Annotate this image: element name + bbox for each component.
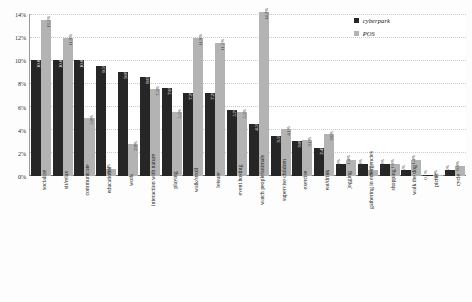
bar-cyberpark[interactable]: 0.5% [445, 170, 455, 176]
bar-group: 0.1%0.0% [422, 14, 444, 176]
bar-value-label: 5.5% [242, 110, 247, 120]
bar-value-label: 2.8% [133, 141, 138, 151]
bar-value-label: 9.5% [101, 63, 106, 73]
category-label: interaction with nature [150, 154, 156, 206]
category-label: eat/drink [324, 170, 330, 190]
bar-cyberpark[interactable]: 7.6% [162, 88, 172, 176]
bar-group: 10.0%11.9% [52, 14, 74, 176]
bar-cyberpark[interactable]: 5.7% [227, 110, 237, 176]
category-tick: work [117, 178, 139, 298]
bar-cyberpark[interactable]: 9.5% [96, 66, 106, 176]
category-label: sit/relax [63, 171, 69, 189]
bar-group: 3.0%3.1% [292, 14, 314, 176]
category-label: gathering in emergencies [368, 151, 374, 209]
bar-value-label: 14.2% [264, 8, 269, 20]
bar-cyberpark[interactable]: 7.2% [205, 93, 215, 176]
bar-pos[interactable]: 11.5% [215, 43, 225, 176]
legend-item-cyberpark[interactable]: cyberpark [354, 17, 390, 24]
bar-group: 0.5%0.9% [444, 14, 466, 176]
legend: cyberpark POS [354, 17, 390, 37]
category-label: watch people/animals [259, 155, 265, 205]
category-label: leisure [215, 172, 221, 187]
bar-value-label: 3.1% [307, 137, 312, 147]
bar-group: 10.0%13.5% [30, 14, 52, 176]
bar-cyberpark[interactable]: 1.0% [358, 164, 368, 176]
bar-value-label: 10.0% [79, 56, 84, 68]
category-label: walk the dog [411, 165, 417, 195]
bar-cyberpark[interactable]: 3.5% [271, 136, 281, 177]
category-tick: watch people/animals [248, 178, 270, 298]
y-axis-tick: 6% [18, 103, 26, 110]
y-axis-tick: 14% [15, 11, 26, 18]
bar-cyberpark[interactable]: 10.0% [31, 60, 41, 176]
bar-value-label: 1.4% [346, 155, 351, 165]
bar-value-label: 0.9% [455, 161, 460, 171]
bar-value-label: 1.0% [390, 160, 395, 170]
category-tick: walk the dog [401, 178, 423, 298]
bar-value-label: 5.0% [89, 115, 94, 125]
category-label: cycle [455, 174, 461, 186]
category-tick: leisure [204, 178, 226, 298]
y-axis-tick: 0% [18, 173, 26, 180]
bar-pos[interactable]: 5.5% [172, 112, 182, 176]
category-label: jogging [346, 171, 352, 189]
bar-cyberpark[interactable]: 9.0% [118, 72, 128, 176]
bar-value-label: 5.5% [177, 110, 182, 120]
category-tick: socialize [30, 178, 52, 298]
bar-pos[interactable]: 2.8% [128, 144, 138, 176]
bar-group: 9.5%0.6% [95, 14, 117, 176]
category-label: socialize [41, 170, 47, 190]
legend-label: cyberpark [363, 17, 390, 24]
bar-pos[interactable]: 13.5% [41, 20, 51, 176]
legend-label: POS [363, 30, 375, 37]
bars-layer: 10.0%13.5%10.0%11.9%10.0%5.0%9.5%0.6%9.0… [30, 14, 466, 176]
bar-pos[interactable]: 14.2% [259, 12, 269, 176]
category-label: educational [106, 167, 112, 194]
bar-group: 0.5%1.4% [401, 14, 423, 176]
category-tick: event hosting [226, 178, 248, 298]
bar-value-label: 11.5% [220, 39, 225, 51]
category-tick: exercise [292, 178, 314, 298]
category-tick: sit/relax [52, 178, 74, 298]
bar-pos[interactable]: 11.9% [63, 38, 73, 176]
category-label: supervise children [281, 159, 287, 201]
bar-group: 5.7%5.5% [226, 14, 248, 176]
bar-cyberpark[interactable]: 10.0% [53, 60, 63, 176]
category-tick: gathering in emergencies [357, 178, 379, 298]
bar-cyberpark[interactable]: 8.6% [140, 77, 150, 177]
y-axis-tick: 8% [18, 80, 26, 87]
bar-value-label: 0.5% [445, 165, 450, 175]
bar-cyberpark[interactable]: 10.0% [74, 60, 84, 176]
bar-pos[interactable]: 11.9% [193, 38, 203, 176]
bar-cyberpark[interactable]: 4.5% [249, 124, 259, 176]
bar-group: 9.0%2.8% [117, 14, 139, 176]
category-tick: walk/stroll [183, 178, 205, 298]
bar-cyberpark[interactable]: 1.0% [336, 164, 346, 176]
bar-value-label: 11.9% [198, 34, 203, 46]
bar-group: 7.6%5.5% [161, 14, 183, 176]
bar-cyberpark[interactable]: 2.4% [314, 148, 324, 176]
y-axis-tick: 4% [18, 126, 26, 133]
bar-cyberpark[interactable]: 3.0% [292, 141, 302, 176]
category-label: picnic [433, 173, 439, 187]
bar-chart: 0%2%4%6%8%10%12%14% 10.0%13.5%10.0%11.9%… [0, 0, 472, 302]
bar-group: 2.4%3.6% [313, 14, 335, 176]
bar-group: 3.5%4.1% [270, 14, 292, 176]
bar-cyberpark[interactable]: 0.5% [401, 170, 411, 176]
category-tick: supervise children [270, 178, 292, 298]
category-axis: socializesit/relaxcommunicateeducational… [30, 178, 466, 298]
bar-value-label: 7.6% [167, 85, 172, 95]
bar-group: 4.5%14.2% [248, 14, 270, 176]
bar-cyberpark[interactable]: 7.2% [183, 93, 193, 176]
y-axis-tick: 12% [15, 34, 26, 41]
bar-value-label: 1.0% [358, 160, 363, 170]
bar-cyberpark[interactable]: 1.0% [380, 164, 390, 176]
bar-group: 10.0%5.0% [74, 14, 96, 176]
category-tick: educational [95, 178, 117, 298]
category-label: walk/stroll [193, 168, 199, 193]
legend-item-pos[interactable]: POS [354, 30, 390, 37]
y-axis-tick: 2% [18, 149, 26, 156]
bar-cyberpark[interactable]: 0.1% [423, 175, 433, 176]
category-tick: shopping [379, 178, 401, 298]
category-label: communicate [84, 164, 90, 195]
